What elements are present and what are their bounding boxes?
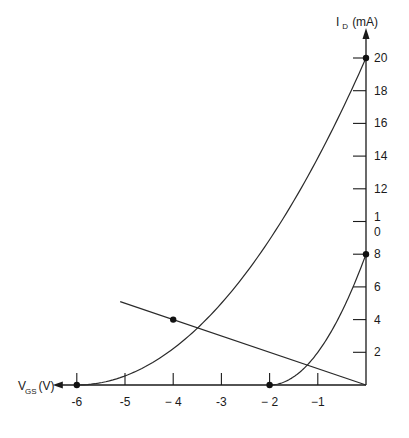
x-tick-label: -3 — [216, 395, 227, 409]
y-tick-label: 4 — [374, 313, 381, 327]
x-tick-label: − 4 — [165, 395, 182, 409]
y-tick-label: 0 — [374, 225, 381, 239]
y-tick-label: 8 — [374, 247, 381, 261]
y-tick-label: 6 — [374, 280, 381, 294]
y-axis-label: ID(mA) — [336, 15, 378, 31]
x-tick-label: −1 — [311, 395, 325, 409]
data-point-marker — [266, 382, 272, 388]
y-tick-label: 20 — [374, 51, 388, 65]
data-point-marker — [170, 316, 176, 322]
data-point-marker — [363, 251, 369, 257]
y-tick-label: 16 — [374, 116, 388, 130]
x-tick-label: -5 — [120, 395, 131, 409]
transfer-characteristic-chart: -6-5− 4-3− 2−12468101214161820 ID(mA) VG… — [0, 0, 409, 438]
x-tick-label: -6 — [71, 395, 82, 409]
data-point-marker — [74, 382, 80, 388]
y-tick-label: 2 — [374, 345, 381, 359]
axis-labels: ID(mA) VGS(V) — [18, 15, 378, 396]
marked-points — [74, 55, 370, 388]
y-axis-arrow-icon — [363, 28, 370, 39]
bias-line — [120, 302, 366, 385]
y-tick-label: 12 — [374, 182, 388, 196]
x-axis-label: VGS(V) — [18, 379, 55, 396]
axes: -6-5− 4-3− 2−12468101214161820 — [53, 28, 388, 409]
y-tick-label: 18 — [374, 84, 388, 98]
transfer-curve — [270, 254, 366, 385]
series-group — [77, 58, 366, 385]
y-tick-label: 1 — [374, 210, 381, 224]
y-tick-label: 14 — [374, 149, 388, 163]
x-tick-label: − 2 — [261, 395, 278, 409]
data-point-marker — [363, 55, 369, 61]
